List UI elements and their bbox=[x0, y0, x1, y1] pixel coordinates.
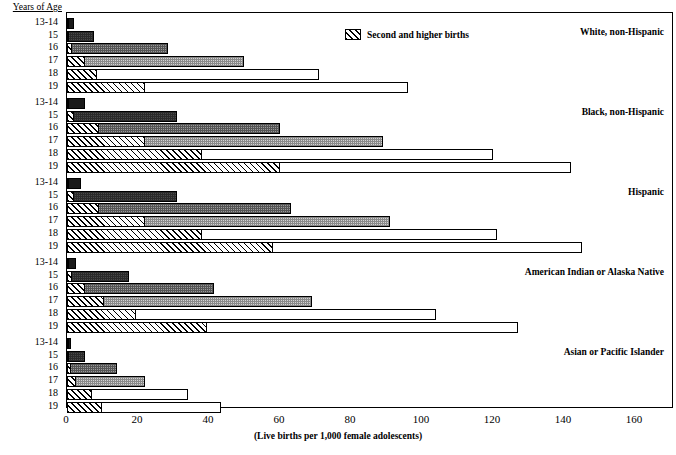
bar-second-and-higher bbox=[67, 216, 145, 227]
bar-second-and-higher bbox=[67, 69, 97, 80]
x-axis-title: (Live births per 1,000 female adolescent… bbox=[0, 431, 676, 441]
bar-second-and-higher bbox=[67, 338, 69, 349]
bar-second-and-higher bbox=[67, 271, 72, 282]
y-axis-tick-black-non-hispanic-18: 18 bbox=[0, 147, 58, 159]
y-axis-tick-hispanic-16: 16 bbox=[0, 201, 58, 213]
bar-second-and-higher bbox=[67, 351, 69, 362]
bar-second-and-higher bbox=[67, 162, 280, 173]
y-axis-tick-american-indian-or-alaska-native-13-14: 13-14 bbox=[0, 256, 58, 268]
y-axis-tick-black-non-hispanic-15: 15 bbox=[0, 109, 58, 121]
y-axis-tick-white-non-hispanic-13-14: 13-14 bbox=[0, 16, 58, 28]
bar-second-and-higher bbox=[67, 363, 71, 374]
y-axis-tick-hispanic-13-14: 13-14 bbox=[0, 176, 58, 188]
bar-total bbox=[67, 283, 214, 294]
bar-second-and-higher bbox=[67, 242, 273, 253]
bar-total bbox=[67, 123, 280, 134]
y-axis-tick-american-indian-or-alaska-native-19: 19 bbox=[0, 320, 58, 332]
bar-second-and-higher bbox=[67, 56, 85, 67]
bar-total bbox=[67, 56, 244, 67]
bar-second-and-higher bbox=[67, 18, 69, 29]
bar-second-and-higher bbox=[67, 82, 145, 93]
bar-total bbox=[67, 69, 319, 80]
bar-second-and-higher bbox=[67, 31, 69, 42]
y-axis-tick-white-non-hispanic-19: 19 bbox=[0, 80, 58, 92]
x-axis-tick-0: 0 bbox=[46, 413, 86, 426]
y-axis-tick-hispanic-17: 17 bbox=[0, 214, 58, 226]
bar-total bbox=[67, 203, 291, 214]
y-axis-tick-black-non-hispanic-13-14: 13-14 bbox=[0, 96, 58, 108]
bar-total bbox=[67, 191, 177, 202]
x-axis-tick-80: 80 bbox=[330, 413, 370, 426]
y-axis-tick-black-non-hispanic-19: 19 bbox=[0, 160, 58, 172]
y-axis-tick-asian-or-pacific-islander-15: 15 bbox=[0, 349, 58, 361]
group-label-black-non-hispanic: Black, non-Hispanic bbox=[582, 107, 664, 117]
y-axis-tick-white-non-hispanic-18: 18 bbox=[0, 67, 58, 79]
bar-second-and-higher bbox=[67, 258, 69, 269]
bar-total bbox=[67, 271, 129, 282]
y-axis-title: Years of Age bbox=[4, 2, 62, 13]
bar-total bbox=[67, 31, 94, 42]
y-axis-tick-american-indian-or-alaska-native-16: 16 bbox=[0, 281, 58, 293]
x-axis-tick-140: 140 bbox=[543, 413, 583, 426]
x-axis-tick-160: 160 bbox=[614, 413, 654, 426]
y-axis-tick-asian-or-pacific-islander-19: 19 bbox=[0, 400, 58, 412]
bar-total bbox=[67, 351, 85, 362]
bar-second-and-higher bbox=[67, 98, 69, 109]
y-axis-tick-black-non-hispanic-17: 17 bbox=[0, 134, 58, 146]
birth-rate-bar-chart: Years of Age 13-14151617181913-141516171… bbox=[0, 0, 676, 455]
group-label-hispanic: Hispanic bbox=[628, 187, 664, 197]
bar-second-and-higher bbox=[67, 309, 136, 320]
bar-second-and-higher bbox=[67, 322, 207, 333]
y-axis-tick-white-non-hispanic-17: 17 bbox=[0, 54, 58, 66]
bar-total bbox=[67, 111, 177, 122]
y-axis-tick-american-indian-or-alaska-native-17: 17 bbox=[0, 294, 58, 306]
x-axis-tick-100: 100 bbox=[401, 413, 441, 426]
bar-second-and-higher bbox=[67, 149, 202, 160]
bar-second-and-higher bbox=[67, 376, 76, 387]
group-label-american-indian-or-alaska-native: American Indian or Alaska Native bbox=[525, 267, 664, 277]
bar-second-and-higher bbox=[67, 296, 104, 307]
y-axis-tick-american-indian-or-alaska-native-15: 15 bbox=[0, 269, 58, 281]
y-axis-tick-asian-or-pacific-islander-16: 16 bbox=[0, 361, 58, 373]
bar-total bbox=[67, 178, 81, 189]
y-axis-tick-hispanic-19: 19 bbox=[0, 240, 58, 252]
bar-second-and-higher bbox=[67, 123, 99, 134]
y-axis-tick-asian-or-pacific-islander-18: 18 bbox=[0, 387, 58, 399]
bar-total bbox=[67, 363, 117, 374]
y-axis-tick-american-indian-or-alaska-native-18: 18 bbox=[0, 307, 58, 319]
bar-second-and-higher bbox=[67, 178, 69, 189]
y-axis-tick-asian-or-pacific-islander-13-14: 13-14 bbox=[0, 336, 58, 348]
group-label-white-non-hispanic: White, non-Hispanic bbox=[580, 27, 664, 37]
plot-area: White, non-HispanicBlack, non-HispanicHi… bbox=[66, 12, 673, 408]
legend: Second and higher births bbox=[345, 29, 469, 40]
group-label-asian-or-pacific-islander: Asian or Pacific Islander bbox=[564, 347, 664, 357]
bar-second-and-higher bbox=[67, 389, 92, 400]
bar-second-and-higher bbox=[67, 402, 102, 413]
y-axis-tick-black-non-hispanic-16: 16 bbox=[0, 121, 58, 133]
bar-second-and-higher bbox=[67, 203, 99, 214]
y-axis-tick-hispanic-18: 18 bbox=[0, 227, 58, 239]
y-axis-tick-asian-or-pacific-islander-17: 17 bbox=[0, 374, 58, 386]
bar-total bbox=[67, 43, 168, 54]
second-and-higher-births-swatch-icon bbox=[345, 29, 361, 40]
x-axis-tick-120: 120 bbox=[472, 413, 512, 426]
y-axis-tick-hispanic-15: 15 bbox=[0, 189, 58, 201]
bar-second-and-higher bbox=[67, 111, 74, 122]
bar-second-and-higher bbox=[67, 136, 145, 147]
x-axis-tick-60: 60 bbox=[259, 413, 299, 426]
y-axis-tick-white-non-hispanic-15: 15 bbox=[0, 29, 58, 41]
x-axis-tick-40: 40 bbox=[188, 413, 228, 426]
bar-second-and-higher bbox=[67, 191, 74, 202]
bar-second-and-higher bbox=[67, 283, 85, 294]
y-axis-tick-white-non-hispanic-16: 16 bbox=[0, 41, 58, 53]
bar-second-and-higher bbox=[67, 43, 72, 54]
bar-total bbox=[67, 376, 145, 387]
legend-label: Second and higher births bbox=[367, 30, 469, 40]
bar-total bbox=[67, 98, 85, 109]
x-axis-tick-20: 20 bbox=[117, 413, 157, 426]
bar-second-and-higher bbox=[67, 229, 202, 240]
